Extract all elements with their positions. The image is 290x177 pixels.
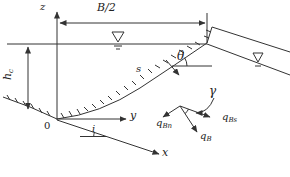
bedload-resultant-label: qB [200, 131, 212, 143]
theta-arc [185, 58, 187, 66]
left-bank-curve [3, 97, 57, 119]
bank-arc-label: s [136, 64, 141, 74]
bank-curve [57, 27, 212, 119]
slope-angle-label: i [92, 124, 95, 134]
origin-label: 0 [44, 121, 50, 131]
bedload-lateral-arrow [163, 106, 180, 117]
y-axis-label: y [130, 110, 136, 121]
downstream-water-symbol [253, 53, 263, 62]
water-surface-symbol [112, 32, 124, 42]
figure-linework [0, 0, 290, 177]
gamma-label: γ [209, 85, 216, 97]
bedload-streamwise-arrow [180, 106, 210, 117]
z-axis-label: z [40, 2, 45, 12]
gamma-leader-arrow [196, 98, 214, 113]
channel-cross-section-figure: z B/2 hc s θ γ y x 0 i qBn qBs qB [0, 0, 290, 177]
theta-label: θ [177, 50, 184, 62]
downstream-water-line [207, 44, 290, 75]
gamma-angle-arc [185, 109, 189, 114]
bedload-streamwise-label: qBs [222, 112, 237, 124]
bedload-lateral-label: qBn [156, 118, 172, 130]
half-width-label: B/2 [97, 2, 116, 13]
center-depth-label: hc [2, 63, 15, 87]
x-axis-label: x [162, 147, 168, 158]
downstream-crest-line [212, 27, 290, 52]
x-axis [57, 120, 159, 154]
